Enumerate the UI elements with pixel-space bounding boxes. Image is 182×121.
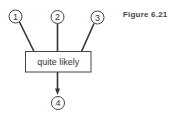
input-node-2: 2 [51,11,64,24]
input-node-1-label: 1 [13,12,18,22]
input-node-1: 1 [9,10,22,23]
figure-caption: Figure 6.21 [123,10,167,19]
edge-3-to-box [82,24,95,52]
arrowhead-icon [55,89,60,96]
combiner-label: quite likely [37,57,80,67]
input-node-3: 3 [91,11,104,24]
arrow-box-to-output [55,72,60,95]
input-node-3-label: 3 [95,13,100,23]
output-node-4: 4 [52,97,65,110]
combiner-box: quite likely [26,52,92,73]
input-node-2-label: 2 [55,12,60,22]
output-node-4-label: 4 [55,98,60,108]
edge-1-to-box [20,22,35,52]
